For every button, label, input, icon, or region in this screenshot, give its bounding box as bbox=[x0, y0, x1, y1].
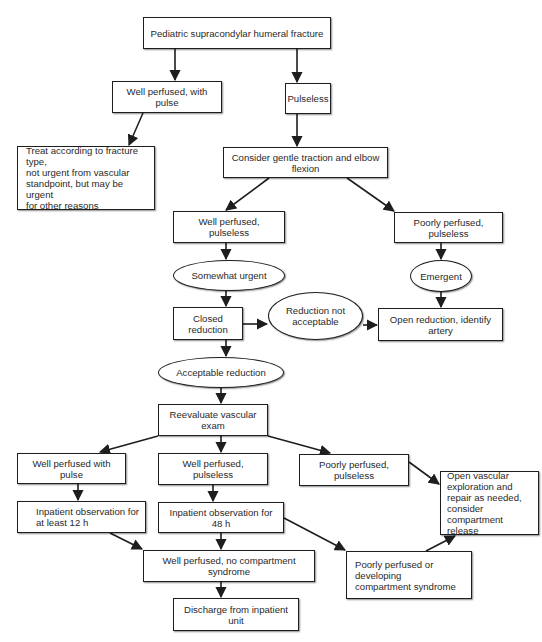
node-discharge: Discharge from inpatient unit bbox=[173, 598, 299, 631]
node-label: Inpatient observation for at least 12 h bbox=[36, 506, 139, 528]
node-label: Treat according to fracture type, not ur… bbox=[26, 145, 150, 211]
node-no-compartment: Well perfused, no compartment syndrome bbox=[143, 550, 315, 582]
node-label: Poorly perfused, pulseless bbox=[304, 459, 404, 481]
node-label: Open vascular exploration and repair as … bbox=[447, 470, 534, 536]
node-label: Pediatric supracondylar humeral fracture bbox=[151, 28, 324, 39]
node-well-perfused-with-pulse-top: Well perfused, with pulse bbox=[112, 81, 222, 113]
node-label: Consider gentle traction and elbow flexi… bbox=[228, 152, 383, 174]
node-label: Well perfused, with pulse bbox=[117, 86, 217, 108]
node-pulseless: Pulseless bbox=[285, 83, 331, 114]
node-reduction-not-acceptable: Reduction not acceptable bbox=[268, 292, 363, 340]
node-label: Inpatient observation for 48 h bbox=[163, 507, 279, 529]
node-label: Well perfused, pulseless bbox=[178, 216, 280, 238]
node-label: Well perfused with pulse bbox=[22, 458, 121, 480]
node-poorly-perfused-pulseless-top: Poorly perfused, pulseless bbox=[394, 212, 503, 243]
node-poorly-or-developing: Poorly perfused or developing compartmen… bbox=[346, 551, 472, 599]
node-treat-according: Treat according to fracture type, not ur… bbox=[17, 146, 155, 210]
node-emergent: Emergent bbox=[410, 260, 472, 292]
node-reevaluate: Reevaluate vascular exam bbox=[158, 404, 268, 436]
node-label: Pulseless bbox=[287, 93, 328, 104]
node-label: Well perfused, pulseless bbox=[163, 458, 263, 480]
node-closed-reduction: Closed reduction bbox=[173, 307, 243, 340]
node-label: Acceptable reduction bbox=[176, 367, 266, 378]
node-label: Reevaluate vascular exam bbox=[163, 409, 263, 431]
node-consider-traction: Consider gentle traction and elbow flexi… bbox=[223, 147, 388, 178]
node-label: Poorly perfused or developing compartmen… bbox=[355, 559, 467, 592]
node-well-perfused-with-pulse-bottom: Well perfused with pulse bbox=[17, 453, 126, 484]
node-poorly-perfused-pulseless-bottom: Poorly perfused, pulseless bbox=[299, 454, 409, 486]
node-label: Poorly perfused, pulseless bbox=[399, 217, 498, 239]
node-root: Pediatric supracondylar humeral fracture bbox=[143, 17, 331, 49]
node-observation-48h: Inpatient observation for 48 h bbox=[158, 502, 284, 533]
node-acceptable-reduction: Acceptable reduction bbox=[158, 357, 284, 388]
node-somewhat-urgent: Somewhat urgent bbox=[173, 260, 285, 291]
node-well-perfused-pulseless-top: Well perfused, pulseless bbox=[173, 211, 285, 243]
node-label: Well perfused, no compartment syndrome bbox=[148, 555, 310, 577]
node-well-perfused-pulseless-bottom: Well perfused, pulseless bbox=[158, 453, 268, 485]
flowchart-canvas: Pediatric supracondylar humeral fracture… bbox=[0, 0, 542, 642]
node-label: Discharge from inpatient unit bbox=[178, 604, 294, 626]
node-open-vascular: Open vascular exploration and repair as … bbox=[440, 471, 539, 535]
node-open-reduction: Open reduction, identify artery bbox=[378, 308, 503, 341]
node-observation-12h: Inpatient observation for at least 12 h bbox=[17, 501, 146, 533]
node-label: Somewhat urgent bbox=[191, 270, 266, 281]
node-label: Reduction not acceptable bbox=[286, 305, 345, 327]
node-label: Emergent bbox=[420, 271, 462, 282]
node-label: Closed reduction bbox=[178, 313, 238, 335]
node-label: Open reduction, identify artery bbox=[383, 314, 498, 336]
